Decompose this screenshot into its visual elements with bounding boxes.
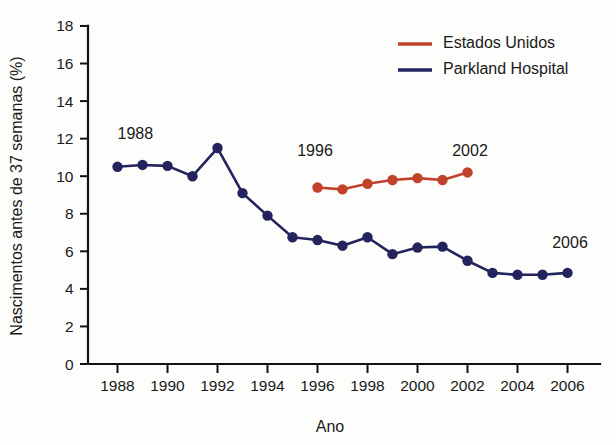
data-point xyxy=(137,160,147,170)
y-tick-label: 4 xyxy=(65,280,74,297)
legend-label: Estados Unidos xyxy=(443,34,555,51)
x-tick-label: 1998 xyxy=(350,377,384,394)
data-point xyxy=(112,162,122,172)
x-tick-label: 1994 xyxy=(250,377,285,394)
x-tick-label: 1990 xyxy=(150,377,185,394)
chart-annotation: 1988 xyxy=(118,125,154,142)
x-tick-label: 2002 xyxy=(450,377,484,394)
data-point xyxy=(312,235,322,245)
y-tick-label: 14 xyxy=(56,93,74,110)
y-tick-label: 10 xyxy=(56,168,74,185)
y-tick-label: 12 xyxy=(56,130,73,147)
data-point xyxy=(362,232,372,242)
chart-annotation: 1996 xyxy=(297,142,333,159)
series-estados-unidos xyxy=(312,167,472,194)
data-point xyxy=(462,167,472,177)
data-point xyxy=(187,171,197,181)
data-point xyxy=(537,270,547,280)
data-point xyxy=(162,161,172,171)
x-tick-label: 1992 xyxy=(200,377,234,394)
data-point xyxy=(412,242,422,252)
y-axis-ticks: 024681012141618 xyxy=(56,17,88,372)
x-axis-ticks: 1988199019921994199619982000200220042006 xyxy=(100,364,584,394)
data-point xyxy=(487,268,497,278)
data-point xyxy=(262,210,272,220)
data-point xyxy=(362,179,372,189)
data-point xyxy=(387,175,397,185)
y-tick-label: 0 xyxy=(65,356,74,373)
data-point xyxy=(237,188,247,198)
data-point xyxy=(387,249,397,259)
chart-annotation: 2006 xyxy=(552,234,588,251)
y-tick-label: 16 xyxy=(56,55,73,72)
y-tick-label: 18 xyxy=(56,17,73,34)
x-axis-title: Ano xyxy=(316,418,345,435)
series-line xyxy=(118,148,568,275)
data-point xyxy=(312,182,322,192)
x-tick-label: 2000 xyxy=(400,377,435,394)
data-point xyxy=(337,184,347,194)
data-point xyxy=(412,173,422,183)
y-tick-label: 8 xyxy=(65,205,74,222)
x-tick-label: 2004 xyxy=(500,377,535,394)
y-axis-title: Nascimentos antes de 37 semanas (%) xyxy=(8,56,25,335)
x-tick-label: 2006 xyxy=(550,377,584,394)
chart-legend: Estados UnidosParkland Hospital xyxy=(398,34,568,77)
data-point xyxy=(562,268,572,278)
series-parkland-hospital xyxy=(112,143,572,280)
y-tick-label: 2 xyxy=(65,318,74,335)
data-point xyxy=(287,232,297,242)
x-tick-label: 1988 xyxy=(100,377,134,394)
data-point xyxy=(437,175,447,185)
x-tick-label: 1996 xyxy=(300,377,334,394)
data-point xyxy=(337,240,347,250)
y-tick-label: 6 xyxy=(65,243,74,260)
series-layer xyxy=(112,143,572,280)
chart-figure: 024681012141618 198819901992199419961998… xyxy=(0,0,616,445)
data-point xyxy=(462,256,472,266)
legend-label: Parkland Hospital xyxy=(443,60,568,77)
chart-annotation: 2002 xyxy=(452,142,488,159)
line-chart: 024681012141618 198819901992199419961998… xyxy=(0,0,616,445)
data-point xyxy=(212,143,222,153)
data-point xyxy=(437,241,447,251)
data-point xyxy=(512,270,522,280)
